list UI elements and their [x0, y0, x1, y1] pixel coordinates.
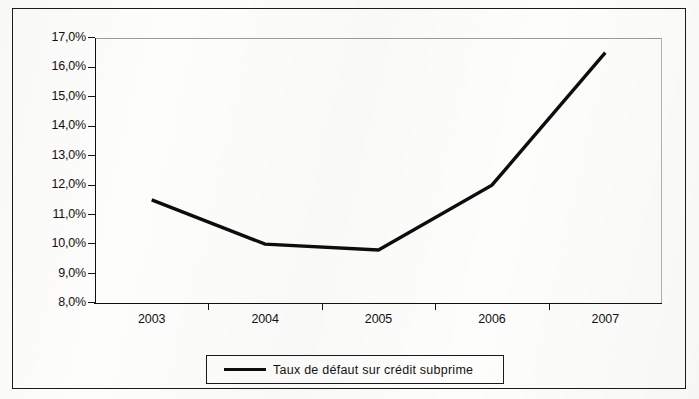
chart-screenshot: 17,0%16,0%15,0%14,0%13,0%12,0%11,0%10,0%…	[0, 0, 699, 399]
y-axis-tick-label: 13,0%	[10, 148, 86, 162]
chart-outer-frame	[12, 8, 686, 389]
y-axis-tick-label: 8,0%	[10, 295, 86, 309]
x-axis-tick	[549, 303, 550, 310]
x-axis-tick-label: 2007	[560, 312, 650, 326]
y-axis-tick-label: 12,0%	[10, 177, 86, 191]
y-axis-tick	[88, 126, 95, 127]
x-axis-tick	[322, 303, 323, 310]
y-axis-tick-label: 15,0%	[10, 89, 86, 103]
x-axis-tick	[208, 303, 209, 310]
y-axis-tick	[88, 155, 95, 156]
y-axis-tick	[88, 302, 95, 303]
y-axis-tick	[88, 37, 95, 38]
y-axis-tick	[88, 214, 95, 215]
x-axis-tick	[435, 303, 436, 310]
x-axis-tick-label: 2005	[334, 312, 424, 326]
x-axis-tick-label: 2006	[447, 312, 537, 326]
x-axis-tick-label: 2003	[107, 312, 197, 326]
y-axis-tick-label: 17,0%	[10, 30, 86, 44]
x-axis-tick-label: 2004	[220, 312, 310, 326]
y-axis-tick	[88, 273, 95, 274]
y-axis-tick-label: 14,0%	[10, 118, 86, 132]
y-axis-tick-label: 11,0%	[10, 207, 86, 221]
plot-right-border	[661, 38, 662, 303]
chart-legend: Taux de défaut sur crédit subprime	[206, 355, 504, 384]
y-axis-tick-label: 10,0%	[10, 236, 86, 250]
y-axis-tick-label: 16,0%	[10, 59, 86, 73]
y-axis-tick	[88, 185, 95, 186]
legend-label: Taux de défaut sur crédit subprime	[273, 363, 473, 377]
y-axis-line	[95, 38, 96, 304]
legend-line-swatch	[224, 368, 266, 371]
y-axis-tick-label: 9,0%	[10, 266, 86, 280]
y-axis-tick	[88, 243, 95, 244]
y-axis-tick	[88, 67, 95, 68]
plot-top-gridline	[95, 38, 662, 39]
y-axis-tick	[88, 96, 95, 97]
x-axis-line	[94, 303, 662, 304]
